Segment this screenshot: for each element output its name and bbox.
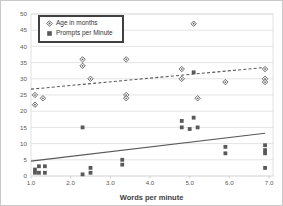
- data-point-diamond-dot: [264, 81, 266, 83]
- data-point-diamond-dot: [125, 97, 127, 99]
- y-tick-label: 30: [20, 75, 27, 82]
- data-point-diamond-dot: [34, 94, 36, 96]
- data-point-diamond-dot: [225, 81, 227, 83]
- data-point-diamond-dot: [181, 78, 183, 80]
- data-point-square: [33, 168, 37, 172]
- legend-item-age: Age in months: [46, 20, 113, 27]
- data-point-diamond-dot: [34, 104, 36, 106]
- x-tick-label: 2.0: [66, 179, 75, 186]
- y-tick-label: 45: [20, 26, 27, 33]
- y-tick-label: 10: [20, 140, 27, 147]
- trendline-age: [31, 67, 265, 89]
- x-tick-label: 4.0: [146, 179, 155, 186]
- data-point-square: [188, 127, 192, 131]
- chart-frame: 051015202530354045501.02.03.04.05.06.07.…: [0, 0, 283, 206]
- diamond-marker-icon: [46, 20, 53, 27]
- data-point-square: [263, 166, 267, 170]
- x-tick-label: 1.0: [27, 179, 36, 186]
- data-point-square: [196, 126, 200, 130]
- data-point-square: [263, 151, 267, 155]
- data-point-diamond-dot: [82, 59, 84, 61]
- data-point-square: [120, 163, 124, 167]
- legend-item-prompts: Prompts per Minute: [46, 30, 113, 37]
- data-point-square: [263, 143, 267, 147]
- data-point-square: [81, 172, 85, 176]
- data-point-square: [192, 70, 196, 74]
- data-point-square: [180, 126, 184, 130]
- y-tick-label: 15: [20, 124, 27, 131]
- data-point-square: [192, 116, 196, 120]
- legend-label-age: Age in months: [56, 20, 98, 27]
- data-point-diamond-dot: [90, 78, 92, 80]
- data-point-square: [180, 119, 184, 123]
- x-tick-label: 7.0: [265, 179, 274, 186]
- data-point-square: [37, 164, 41, 168]
- data-point-diamond-dot: [197, 97, 199, 99]
- data-point-square: [81, 126, 85, 130]
- data-point-diamond-dot: [193, 23, 195, 25]
- x-axis-title: Words per minute: [21, 193, 282, 202]
- data-point-square: [223, 151, 227, 155]
- y-tick-label: 20: [20, 107, 27, 114]
- data-point-diamond-dot: [82, 65, 84, 67]
- data-point-square: [89, 171, 93, 175]
- y-tick-label: 25: [20, 91, 27, 98]
- data-point-diamond-dot: [42, 97, 44, 99]
- x-tick-label: 3.0: [106, 179, 115, 186]
- y-tick-label: 50: [20, 10, 27, 17]
- data-point-square: [223, 145, 227, 149]
- x-tick-label: 6.0: [225, 179, 234, 186]
- y-tick-label: 5: [24, 156, 28, 163]
- legend: Age in months Prompts per Minute: [38, 15, 124, 43]
- trendline-prompts: [31, 133, 265, 161]
- data-point-square: [263, 148, 267, 152]
- y-tick-label: 35: [20, 59, 27, 66]
- data-point-square: [43, 171, 47, 175]
- data-point-square: [89, 166, 93, 170]
- legend-label-prompts: Prompts per Minute: [56, 30, 113, 37]
- square-marker-icon: [46, 30, 53, 37]
- data-point-square: [37, 171, 41, 175]
- x-tick-label: 5.0: [185, 179, 194, 186]
- data-point-diamond-dot: [264, 68, 266, 70]
- data-point-diamond-dot: [181, 68, 183, 70]
- data-point-square: [33, 171, 37, 175]
- data-point-diamond-dot: [125, 59, 127, 61]
- data-point-square: [43, 164, 47, 168]
- data-point-square: [120, 158, 124, 162]
- y-tick-label: 40: [20, 43, 27, 50]
